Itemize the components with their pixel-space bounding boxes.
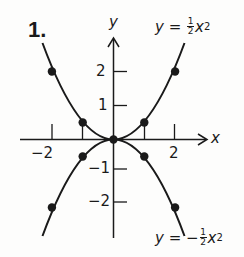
- y-tick-label-neg1: −1: [88, 161, 110, 176]
- problem-number: 1.: [28, 17, 46, 43]
- y-tick-label-2: 2: [96, 64, 106, 79]
- fraction: 1 2: [200, 228, 207, 247]
- y-tick-label-1: 1: [98, 98, 108, 113]
- upper-parabola-equation: y = 1 2 x2: [155, 17, 210, 36]
- fraction: 1 2: [187, 17, 194, 36]
- x-axis-label: x: [211, 131, 220, 146]
- lower-parabola-equation: y = − 1 2 x2: [155, 228, 223, 247]
- x-tick-label-2: 2: [169, 146, 179, 161]
- x-tick-label-neg2: −2: [31, 146, 53, 161]
- y-tick-label-neg2: −2: [88, 194, 110, 209]
- y-axis-label: y: [109, 15, 118, 30]
